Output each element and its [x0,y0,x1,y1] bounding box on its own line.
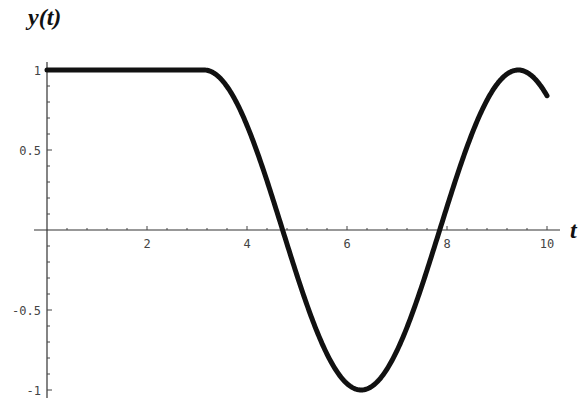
x-tick-label: 10 [540,237,554,251]
x-tick-label: 8 [443,237,450,251]
x-axis-label: t [570,217,578,243]
y-tick-label: 1 [34,64,41,78]
y-tick-label: -0.5 [12,304,41,318]
chart-canvas: 2 4 6 8 10 1 0.5 -0.5 -1 y(t) t [0,0,587,406]
x-tick-label: 6 [343,237,350,251]
y-tick-label: 0.5 [19,144,41,158]
x-tick-label: 2 [143,237,150,251]
y-axis-label: y(t) [25,4,61,30]
y-tick-label: -1 [27,384,41,398]
x-tick-label: 4 [243,237,250,251]
